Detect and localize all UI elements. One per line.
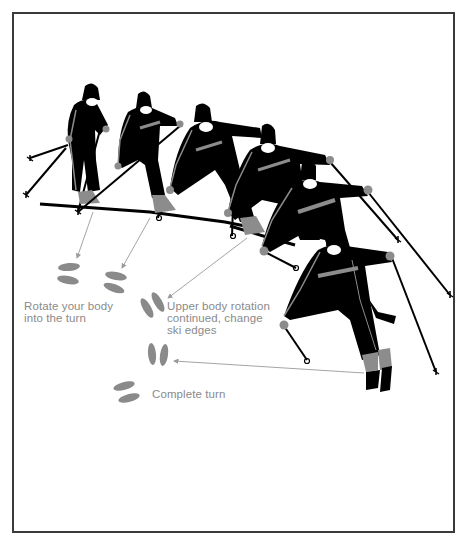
caption-upper-body-rotation: Upper body rotation continued, change sk… bbox=[167, 300, 270, 336]
footprints bbox=[56, 262, 169, 405]
footprint-pair-2 bbox=[102, 270, 127, 295]
footprint-pair-5 bbox=[112, 379, 140, 404]
footprint-pair-3 bbox=[138, 290, 167, 319]
skier-figure-6 bbox=[280, 225, 437, 392]
footprint-pair-1 bbox=[56, 262, 80, 286]
footprint-pair-4 bbox=[147, 343, 169, 367]
skier-figure-1 bbox=[26, 83, 110, 212]
caption-rotate-body: Rotate your body into the turn bbox=[24, 300, 113, 324]
caption-complete-turn: Complete turn bbox=[152, 388, 226, 400]
ski-turn-illustration bbox=[0, 0, 469, 540]
